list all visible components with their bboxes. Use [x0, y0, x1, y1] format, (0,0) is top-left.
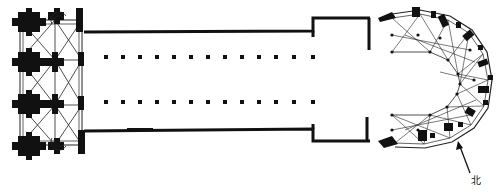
westwork [12, 8, 85, 160]
north-label: 北 [471, 172, 481, 187]
nave-piers-south [104, 100, 315, 104]
choir-apse [378, 7, 493, 148]
north-arrow-icon [456, 141, 470, 173]
nave-piers-north [104, 55, 315, 59]
wall-buttress [127, 128, 153, 131]
nave-walls [84, 18, 370, 141]
floor-plan [0, 0, 497, 193]
